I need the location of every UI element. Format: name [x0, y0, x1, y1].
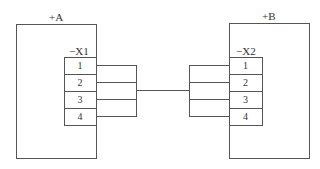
x2-pin-2: 2	[229, 78, 262, 88]
x2-pin-4: 4	[229, 112, 262, 122]
connector-x1-label: −X1	[69, 46, 89, 57]
unit-a-label: +A	[49, 12, 63, 23]
x2-pin-3: 3	[229, 95, 262, 105]
x2-pin-wires	[189, 65, 229, 117]
connector-x2-label: −X2	[236, 46, 256, 57]
wiring-diagram	[0, 0, 320, 169]
x1-pin-3: 3	[64, 95, 96, 105]
x1-pin-4: 4	[64, 112, 96, 122]
x1-pin-2: 2	[64, 78, 96, 88]
x1-pin-wires	[96, 65, 137, 117]
x2-pin-1: 1	[229, 61, 262, 71]
unit-b-label: +B	[262, 11, 276, 22]
x1-pin-1: 1	[64, 61, 96, 71]
